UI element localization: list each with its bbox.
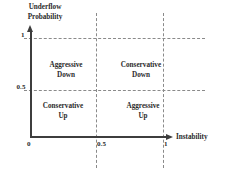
y-axis-line <box>30 31 32 138</box>
quadrant-label-conservative-up: Conservative Up <box>32 101 94 121</box>
y-axis-title-line1: Underflow <box>14 3 76 13</box>
quadrant-label-aggressive-up: Aggressive Up <box>112 101 174 121</box>
quadrant-label-line2: Down <box>35 70 97 80</box>
x-axis-line <box>30 136 168 138</box>
quadrant-label-line1: Conservative <box>110 60 172 70</box>
quadrant-label-conservative-down: Conservative Down <box>110 60 172 80</box>
quadrant-label-aggressive-down: Aggressive Down <box>35 60 97 80</box>
y-axis-tick-1: 1 <box>21 31 25 39</box>
x-axis-tick-05: 0.5 <box>97 140 106 148</box>
x-axis-tick-1: 1 <box>164 140 168 148</box>
gridline-horizontal-y1 <box>24 38 205 39</box>
y-axis-title: Underflow Probability <box>14 3 76 22</box>
y-axis-arrow-icon <box>27 25 33 32</box>
quadrant-label-line1: Aggressive <box>112 101 174 111</box>
quadrant-label-line1: Aggressive <box>35 60 97 70</box>
y-axis-title-line2: Probability <box>14 13 76 23</box>
chart-canvas: Underflow Probability Instability 1 0.5 … <box>0 0 226 173</box>
x-axis-title: Instability <box>176 133 208 141</box>
quadrant-label-line2: Up <box>32 111 94 121</box>
y-axis-tick-05: 0.5 <box>17 83 26 91</box>
quadrant-label-line2: Down <box>110 70 172 80</box>
quadrant-label-line1: Conservative <box>32 101 94 111</box>
quadrant-label-line2: Up <box>112 111 174 121</box>
gridline-horizontal-y05 <box>24 90 205 91</box>
x-axis-tick-0: 0 <box>27 140 31 148</box>
